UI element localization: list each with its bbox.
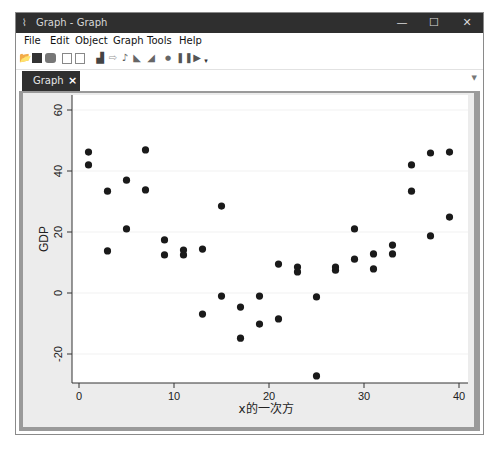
data-point (313, 293, 320, 300)
data-point (351, 225, 358, 232)
y-tick-label: 20 (52, 226, 64, 238)
x-tick-label: 0 (76, 390, 82, 402)
y-tick-label: 0 (52, 290, 64, 296)
data-point (408, 188, 415, 195)
data-point (446, 213, 453, 220)
x-axis-ticks: 010203040 (76, 383, 465, 402)
y-tick-label: -20 (52, 346, 64, 362)
data-point (85, 161, 92, 168)
data-point (218, 202, 225, 209)
data-point (237, 335, 244, 342)
data-point (123, 225, 130, 232)
x-axis-label: x的一次方 (238, 401, 293, 416)
y-axis-label: GDP (37, 226, 51, 252)
data-point (313, 372, 320, 379)
y-tick-label: 40 (52, 165, 64, 177)
data-point (408, 161, 415, 168)
data-point (85, 148, 92, 155)
data-point (370, 250, 377, 257)
y-tick-label: 60 (52, 104, 64, 116)
data-point (370, 265, 377, 272)
x-tick-label: 10 (168, 390, 180, 402)
data-point (389, 242, 396, 249)
data-point (180, 251, 187, 258)
data-point (389, 250, 396, 257)
data-point (237, 303, 244, 310)
data-point (427, 232, 434, 239)
data-point (199, 245, 206, 252)
data-point (123, 177, 130, 184)
x-tick-label: 20 (263, 390, 275, 402)
data-point (256, 321, 263, 328)
data-point (294, 268, 301, 275)
data-point (275, 260, 282, 267)
data-point (427, 149, 434, 156)
data-point (104, 188, 111, 195)
x-tick-label: 30 (358, 390, 370, 402)
data-point (104, 247, 111, 254)
data-point (199, 310, 206, 317)
data-point (446, 148, 453, 155)
data-point (218, 292, 225, 299)
data-point (275, 315, 282, 322)
data-point (142, 146, 149, 153)
data-point (351, 256, 358, 263)
x-tick-label: 40 (453, 390, 465, 402)
y-axis-ticks: -200204060 (52, 104, 72, 362)
data-point (256, 292, 263, 299)
data-point (161, 236, 168, 243)
scatter-plot: -200204060 010203040 GDP x的一次方 (0, 0, 500, 450)
plot-area (72, 95, 468, 383)
data-point (332, 267, 339, 274)
data-point (161, 251, 168, 258)
data-point (142, 186, 149, 193)
